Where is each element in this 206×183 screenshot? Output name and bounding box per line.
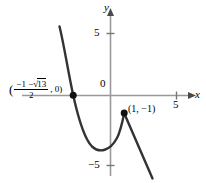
root-denominator: 2 <box>27 90 36 100</box>
root-numerator: −1 −√13 <box>14 78 48 90</box>
linear-branch <box>124 113 152 178</box>
x-axis-label: x <box>195 89 200 100</box>
graph-figure: x y 0 5 −5 5 ( −1 −√13 2 , 0) (1, −1) <box>0 0 206 183</box>
root-open-paren: ( <box>9 83 13 96</box>
root-point-dot <box>70 92 77 99</box>
root-numerator-lead: −1 − <box>16 79 33 89</box>
y-tick-label-5: 5 <box>94 27 100 38</box>
parabolic-branch <box>60 27 125 151</box>
sqrt-icon: √13 <box>33 78 46 89</box>
y-tick-label-neg5: −5 <box>88 159 100 170</box>
root-point-label: ( −1 −√13 2 , 0) <box>9 78 62 101</box>
y-axis <box>107 8 115 176</box>
root-label-tail: , 0) <box>50 85 62 94</box>
root-fraction: −1 −√13 2 <box>14 78 48 101</box>
x-tick-label-5: 5 <box>173 99 179 110</box>
vertex-point-label: (1, −1) <box>128 104 155 114</box>
vertex-point-dot <box>121 110 128 117</box>
radicand: 13 <box>37 78 46 89</box>
origin-label: 0 <box>100 78 106 89</box>
y-axis-label: y <box>104 2 109 13</box>
